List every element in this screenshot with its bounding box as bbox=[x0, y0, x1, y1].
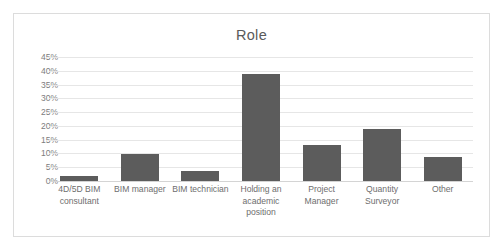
bar-slot bbox=[49, 57, 110, 181]
gridline bbox=[49, 181, 473, 182]
plot-area bbox=[49, 57, 473, 181]
bar[interactable] bbox=[242, 74, 280, 181]
chart-title: Role bbox=[14, 27, 489, 43]
bar[interactable] bbox=[303, 145, 341, 181]
x-axis-tick-label: Quantity Surveyor bbox=[352, 184, 413, 207]
x-axis: 4D/5D BIM consultantBIM managerBIM techn… bbox=[49, 184, 473, 236]
x-axis-tick-label: 4D/5D BIM consultant bbox=[49, 184, 110, 207]
bar-slot bbox=[412, 57, 473, 181]
bar[interactable] bbox=[424, 157, 462, 181]
bar-slot bbox=[291, 57, 352, 181]
bar-slot bbox=[352, 57, 413, 181]
chart-container: Role 0%5%10%15%20%25%30%35%40%45% 4D/5D … bbox=[13, 13, 490, 237]
bar-slot bbox=[231, 57, 292, 181]
bar[interactable] bbox=[363, 129, 401, 181]
x-axis-tick-label: BIM manager bbox=[110, 184, 171, 196]
bar[interactable] bbox=[121, 154, 159, 181]
x-axis-tick-label: Project Manager bbox=[291, 184, 352, 207]
x-axis-tick-label: Other bbox=[412, 184, 473, 196]
bar[interactable] bbox=[181, 171, 219, 181]
bar-slot bbox=[110, 57, 171, 181]
bar-series bbox=[49, 57, 473, 181]
x-axis-tick-label: Holding an academic position bbox=[231, 184, 292, 219]
bar-slot bbox=[170, 57, 231, 181]
x-axis-tick-label: BIM technician bbox=[170, 184, 231, 196]
bar[interactable] bbox=[60, 176, 98, 182]
